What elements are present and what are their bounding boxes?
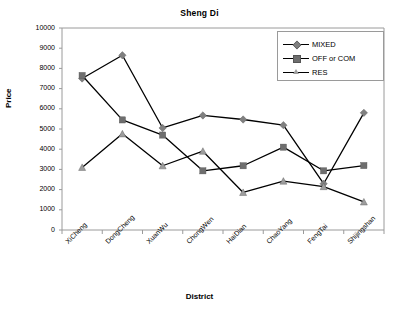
data-point-marker (160, 132, 166, 138)
y-axis-tick-label: 1000 (21, 205, 55, 212)
y-axis-tick-label: 5000 (21, 125, 55, 132)
y-axis-tick-label: 7000 (21, 84, 55, 91)
y-axis-tick-label: 8000 (21, 64, 55, 71)
y-axis-tick-label: 6000 (21, 104, 55, 111)
legend-item-mixed[interactable]: MIXED (283, 37, 336, 51)
data-point-marker (239, 116, 246, 123)
y-axis-tick-label: 9000 (21, 44, 55, 51)
data-point-marker (199, 112, 206, 119)
legend-item-off-or-com[interactable]: OFF or COM (283, 51, 355, 65)
data-point-marker (159, 124, 166, 131)
data-point-marker (361, 162, 367, 168)
y-axis-tick-label: 10000 (21, 24, 55, 31)
data-point-marker (119, 52, 126, 59)
data-point-marker (79, 72, 85, 78)
data-point-marker (240, 163, 246, 169)
y-axis-tick-label: 0 (21, 226, 55, 233)
data-point-marker (321, 168, 327, 174)
data-point-marker (119, 117, 125, 123)
y-axis-tick-label: 4000 (21, 145, 55, 152)
legend-label: OFF or COM (312, 54, 355, 63)
data-point-marker (280, 144, 286, 150)
chart-container: Sheng Di Price District 0100020003000400… (0, 0, 399, 314)
y-axis-tick-label: 3000 (21, 165, 55, 172)
chart-legend: MIXEDOFF or COMRES (277, 31, 384, 81)
series-off-or-com (79, 72, 367, 174)
legend-swatch-icon (283, 39, 309, 49)
legend-item-res[interactable]: RES (283, 65, 327, 79)
y-axis-tick-label: 2000 (21, 185, 55, 192)
legend-swatch-icon (283, 67, 309, 77)
data-point-marker (119, 130, 126, 137)
data-point-marker (360, 109, 367, 116)
data-point-marker (360, 198, 367, 205)
legend-label: RES (312, 68, 327, 77)
data-point-marker (280, 121, 287, 128)
legend-label: MIXED (312, 40, 336, 49)
legend-swatch-icon (283, 53, 309, 63)
data-point-marker (200, 168, 206, 174)
data-point-marker (199, 148, 206, 155)
